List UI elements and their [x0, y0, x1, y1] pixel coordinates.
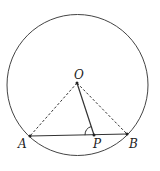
segment-OP [77, 83, 94, 135]
point-B [126, 133, 129, 136]
point-A [29, 135, 32, 138]
dashed-OB [77, 83, 127, 134]
label-P: P [92, 137, 102, 151]
angle-mark-OPA [85, 127, 91, 136]
label-B: B [128, 137, 138, 151]
geometry-figure: O A P B [0, 0, 160, 171]
label-O: O [74, 68, 84, 82]
dashed-OA [30, 83, 77, 136]
label-A: A [17, 137, 27, 151]
chord-AB [30, 134, 127, 136]
